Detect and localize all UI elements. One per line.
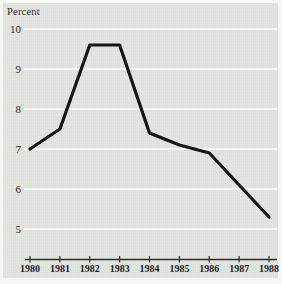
figure-page: Percent 1098765 198019811982198319841985… <box>0 0 282 284</box>
unemployment-line-chart <box>0 0 282 284</box>
data-line-percent <box>30 45 269 217</box>
